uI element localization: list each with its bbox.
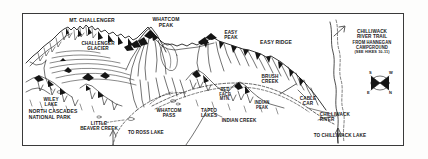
compass-label-w: W <box>389 70 393 75</box>
label-cable-car: CABLE CAR <box>292 96 324 106</box>
label-red-face-mtn: RED FACE MTN. <box>211 88 239 102</box>
label-brush-creek: BRUSH CREEK <box>251 74 288 84</box>
label-little-beaver-creek: LITTLE BEAVER CREEK <box>72 121 126 131</box>
label-indian-peak: INDIAN PEAK <box>246 101 278 110</box>
chilliwack-river-trail-note: CHILLIWACK RIVER TRAIL FROM HANNEGAN CAM… <box>341 29 403 53</box>
label-easy-ridge: EASY RIDGE <box>251 40 301 46</box>
label-whatcom-pass: WHATCOM PASS <box>149 108 190 118</box>
label-to-ross-lake: TO ROSS LAKE <box>128 130 178 135</box>
compass-label-s: S <box>369 70 372 75</box>
label-north-cascades-national-park: NORTH CASCADES NATIONAL PARK <box>29 109 102 120</box>
label-wiley-lake: WILEY LAKE <box>34 97 67 107</box>
label-challenger-glacier: CHALLENGER GLACIER <box>72 41 124 51</box>
panoramic-trail-map: MT. CHALLENGER WHATCOM PEAK EASY PEAK RE… <box>0 0 428 159</box>
label-to-chilliwack-lake: TO CHILLIWACK LAKE <box>314 133 385 138</box>
label-whatcom-peak: WHATCOM PEAK <box>143 17 190 28</box>
label-easy-peak: EASY PEAK <box>213 30 248 40</box>
label-chilliwack-river: CHILLIWACK RIVER <box>320 112 367 122</box>
note-line-2: RIVER TRAIL <box>343 34 401 39</box>
label-indian-creek: INDIAN CREEK <box>215 118 263 123</box>
compass-label-n: N <box>389 90 392 95</box>
note-line-5: (SEE HIKES 10-11) <box>343 50 401 54</box>
label-tapto-lakes: TAPTO LAKES <box>193 108 225 118</box>
label-mt-challenger: MT. CHALLENGER <box>59 18 124 24</box>
compass-label-e: E <box>367 90 370 95</box>
